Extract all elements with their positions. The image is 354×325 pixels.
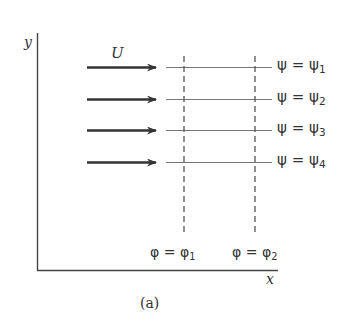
- axes: [37, 33, 278, 271]
- potential-lines: [184, 56, 255, 232]
- streamline-label-2: ψ = ψ2: [277, 90, 326, 107]
- streamline-label-4: ψ = ψ4: [277, 153, 326, 170]
- streamline-label-1: ψ = ψ1: [277, 58, 326, 75]
- x-axis-label: x: [266, 272, 274, 286]
- figure-caption: (a): [140, 296, 159, 310]
- potential-label-2: φ = φ2: [232, 245, 277, 262]
- velocity-label: U: [111, 46, 124, 61]
- streamlines: [166, 68, 272, 163]
- uniform-flow-diagram: y x U ψ = ψ1 ψ = ψ2 ψ = ψ3 ψ = ψ4 φ = φ1…: [0, 0, 354, 325]
- potential-label-1: φ = φ1: [150, 245, 195, 262]
- y-axis-label: y: [24, 35, 32, 49]
- streamline-label-3: ψ = ψ3: [277, 121, 326, 138]
- velocity-arrows: [87, 68, 156, 163]
